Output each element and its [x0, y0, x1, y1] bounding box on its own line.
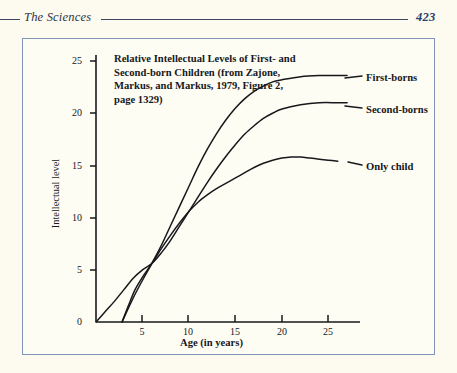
curve-label-first-borns: First-borns [366, 72, 417, 83]
y-tick-label: 5 [60, 264, 82, 275]
running-head-rule-left [0, 19, 20, 20]
running-head-rule-right [101, 19, 408, 20]
running-head: The Sciences 423 [0, 6, 457, 26]
y-tick-label: 0 [60, 316, 82, 327]
running-head-title: The Sciences [24, 10, 91, 25]
x-axis-label: Age (in years) [180, 337, 243, 348]
y-tick-label: 15 [60, 160, 82, 171]
page-number: 423 [416, 10, 436, 25]
x-tick-label: 20 [271, 326, 293, 337]
y-tick-label: 10 [60, 212, 82, 223]
curve-label-second-borns: Second-borns [366, 104, 428, 115]
x-tick-label: 15 [224, 326, 246, 337]
y-tick-label: 25 [60, 55, 82, 66]
x-tick-label: 10 [177, 326, 199, 337]
x-tick-label: 25 [317, 326, 339, 337]
y-tick-label: 20 [60, 107, 82, 118]
book-page: The Sciences 423 Relative Intellectual L… [0, 0, 457, 373]
x-tick-label: 5 [131, 326, 153, 337]
curve-label-only-child: Only child [366, 161, 413, 172]
y-axis-label: Intellectual level [50, 132, 61, 256]
chart-title: Relative Intellectual Levels of First- a… [114, 52, 304, 106]
